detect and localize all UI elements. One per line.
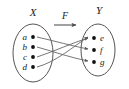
element-label-f: f bbox=[100, 45, 104, 55]
mapping-arrow-d-to-e bbox=[37, 37, 88, 67]
node-dot-g bbox=[92, 60, 96, 64]
diagram-canvas: X Y F a b c d e f g bbox=[0, 0, 129, 89]
set-y-oval bbox=[81, 24, 115, 76]
element-label-a: a bbox=[23, 32, 28, 42]
element-label-e: e bbox=[100, 33, 104, 43]
node-dot-e bbox=[92, 36, 96, 40]
element-label-g: g bbox=[100, 57, 105, 67]
set-x-label: X bbox=[29, 6, 38, 18]
node-dot-d bbox=[31, 65, 35, 69]
element-label-b: b bbox=[23, 42, 28, 52]
set-y-label: Y bbox=[96, 4, 104, 16]
function-mapping-figure: X Y F a b c d e f g bbox=[0, 0, 129, 89]
node-dot-a bbox=[31, 35, 35, 39]
node-dot-f bbox=[92, 48, 96, 52]
node-dot-b bbox=[31, 45, 35, 49]
element-label-d: d bbox=[23, 62, 28, 72]
element-label-c: c bbox=[23, 52, 27, 62]
function-label: F bbox=[61, 10, 69, 21]
node-dot-c bbox=[31, 55, 35, 59]
